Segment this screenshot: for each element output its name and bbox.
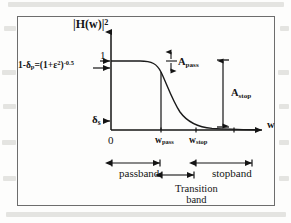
w-pass-sub: pass: [162, 138, 174, 145]
a-pass-sub: pass: [186, 61, 199, 69]
y-tick-label-delta-s: δs: [92, 114, 101, 126]
ripple-eq-part1: 1-δ: [18, 60, 31, 70]
w-stop-sub: stop: [196, 138, 207, 145]
ripple-eq-exp: -0.5: [64, 59, 74, 66]
ripple-eq-part2: =(1+ε: [34, 60, 57, 70]
passband-label: passband: [119, 168, 159, 179]
passband-span: [112, 160, 160, 167]
transition-band-label: Transition band: [175, 183, 218, 205]
transition-band-line2: band: [175, 194, 218, 205]
a-stop-measure: [217, 60, 229, 127]
a-stop-base: A: [231, 87, 239, 98]
y-axis-label: |H(w)|2: [73, 18, 108, 30]
a-pass-base: A: [178, 56, 186, 67]
passband-ripple-equation: 1-δp=(1+ε2)-0.5: [18, 60, 74, 71]
x-tick-label-w-stop: wstop: [189, 136, 207, 146]
x-tick-label-w-pass: wpass: [155, 136, 174, 146]
w-pass-base: w: [155, 135, 162, 145]
transition-band-span: [162, 172, 194, 179]
plot-drawing: [0, 0, 291, 223]
figure-container: |H(w)|2 1-δp=(1+ε2)-0.5 1 δs Apass Astop…: [0, 0, 291, 223]
transition-band-line1: Transition: [175, 183, 218, 194]
y-axis-label-exponent: 2: [104, 18, 108, 27]
a-pass-label: Apass: [178, 57, 199, 69]
w-stop-base: w: [189, 135, 196, 145]
a-stop-label: Astop: [231, 88, 251, 100]
y-tick-label-unity: 1: [100, 50, 106, 61]
stopband-span: [196, 160, 252, 167]
x-axis-label: w: [267, 120, 275, 131]
a-pass-measure: [166, 52, 177, 71]
a-stop-sub: stop: [239, 92, 252, 100]
stopband-label: stopband: [212, 168, 252, 179]
x-tick-label-origin: 0: [108, 135, 114, 146]
delta-s-sub: s: [98, 118, 101, 127]
y-axis-label-base: |H(w)|: [73, 17, 104, 31]
